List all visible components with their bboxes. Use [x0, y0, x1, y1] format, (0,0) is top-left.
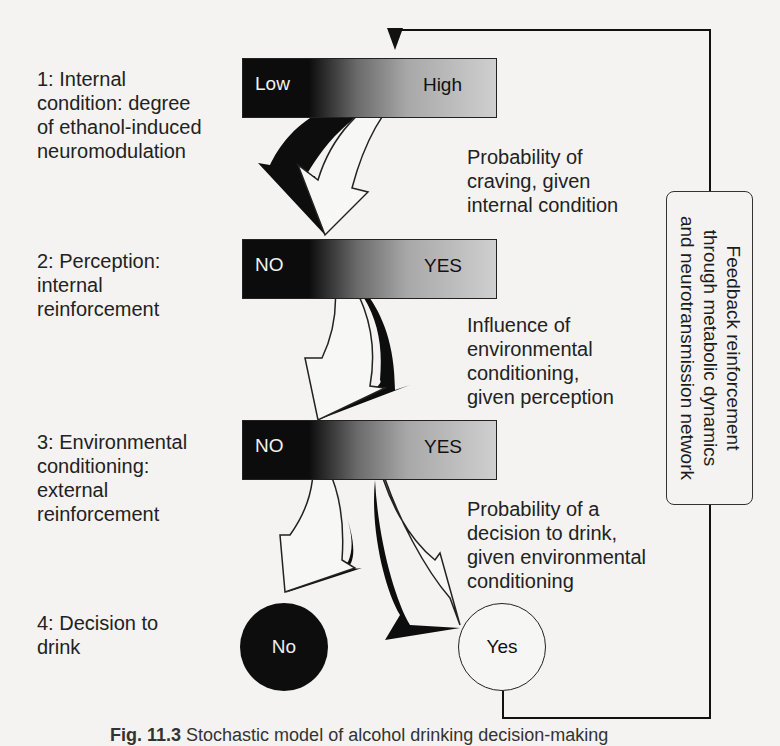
scale-high-label: High — [423, 74, 462, 96]
stage-1-line: of ethanol-induced — [37, 115, 202, 139]
note-line: Probability of a — [467, 497, 646, 521]
craving-note: Probability of craving, given internal c… — [467, 145, 618, 217]
note-line: Influence of — [467, 313, 614, 337]
stage-4-label: 4: Decision to drink — [37, 611, 158, 659]
stage-3-line: conditioning: — [37, 454, 187, 478]
feedback-text: Feedback reinforcement through metabolic… — [675, 198, 744, 498]
stage-1-line: 1: Internal — [37, 67, 202, 91]
outcome-yes-node: Yes — [458, 603, 546, 691]
stage-3-line: reinforcement — [37, 502, 187, 526]
outcome-yes-label: Yes — [487, 636, 518, 658]
perception-scale: NO YES — [242, 239, 497, 299]
arrow-yes-shadow — [374, 480, 460, 640]
feedback-line: Feedback reinforcement — [721, 198, 744, 498]
feedback-line: and neurotransmission network — [675, 198, 698, 498]
environmental-influence-note: Influence of environmental conditioning,… — [467, 313, 614, 409]
note-line: decision to drink, — [467, 521, 646, 545]
outcome-no-node: No — [240, 603, 328, 691]
figure-caption: Fig. 11.3 Stochastic model of alcohol dr… — [110, 725, 608, 746]
stage-2-line: reinforcement — [37, 297, 160, 321]
scale-low-label: NO — [255, 435, 284, 457]
note-line: craving, given — [467, 169, 618, 193]
stage-4-line: drink — [37, 635, 158, 659]
stage-4-line: 4: Decision to — [37, 611, 158, 635]
feedback-line: through metabolic dynamics — [698, 198, 721, 498]
note-line: conditioning — [467, 569, 646, 593]
note-line: conditioning, — [467, 361, 614, 385]
note-line: given environmental — [467, 545, 646, 569]
internal-condition-scale: Low High — [242, 58, 497, 118]
decision-probability-note: Probability of a decision to drink, give… — [467, 497, 646, 593]
figure-number: Fig. 11.3 — [110, 725, 181, 745]
scale-low-label: Low — [255, 73, 290, 95]
stage-3-label: 3: Environmental conditioning: external … — [37, 430, 187, 526]
caption-text: Stochastic model of alcohol drinking dec… — [186, 725, 608, 745]
environmental-scale: NO YES — [242, 420, 497, 480]
stage-2-line: 2: Perception: — [37, 249, 160, 273]
stage-1-label: 1: Internal condition: degree of ethanol… — [37, 67, 202, 163]
stage-1-line: neuromodulation — [37, 139, 202, 163]
outcome-no-label: No — [272, 636, 296, 658]
note-line: given perception — [467, 385, 614, 409]
scale-high-label: YES — [424, 255, 462, 277]
scale-high-label: YES — [424, 436, 462, 458]
note-line: environmental — [467, 337, 614, 361]
note-line: internal condition — [467, 193, 618, 217]
scale-low-label: NO — [255, 254, 284, 276]
note-line: Probability of — [467, 145, 618, 169]
stage-2-label: 2: Perception: internal reinforcement — [37, 249, 160, 321]
stage-2-line: internal — [37, 273, 160, 297]
arrow-down-icon — [387, 28, 403, 50]
stage-3-line: 3: Environmental — [37, 430, 187, 454]
stage-1-line: condition: degree — [37, 91, 202, 115]
feedback-reinforcement-box: Feedback reinforcement through metabolic… — [666, 191, 753, 505]
stage-3-line: external — [37, 478, 187, 502]
